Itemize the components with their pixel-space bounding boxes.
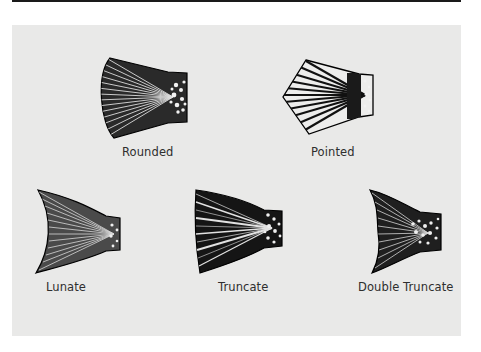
- fin-label-rounded: Rounded: [122, 147, 173, 159]
- fin-label-double-truncate: Double Truncate: [358, 282, 454, 294]
- fin-label-lunate: Lunate: [46, 282, 86, 294]
- fin-double-truncate-illustration: [368, 188, 444, 276]
- top-rule: [12, 0, 461, 2]
- fin-rounded-illustration: [98, 55, 190, 140]
- fin-label-truncate: Truncate: [218, 282, 268, 294]
- fin-label-pointed: Pointed: [311, 147, 355, 159]
- fin-truncate-illustration: [194, 188, 286, 276]
- fin-pointed-illustration: [281, 57, 376, 137]
- fin-lunate-illustration: [34, 188, 124, 276]
